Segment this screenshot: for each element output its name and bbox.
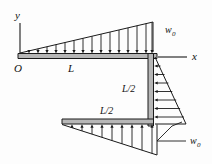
figure-canvas: y x <box>0 0 212 164</box>
span-top-label: L <box>67 62 74 74</box>
side-load-hypotenuse <box>155 57 186 124</box>
segment-lower-label: L/2 <box>99 105 113 116</box>
x-axis-label: x <box>191 50 197 62</box>
top-load-arrows <box>27 22 153 53</box>
bottom-load-hypotenuse <box>62 125 157 156</box>
leader-branch-upper <box>157 126 172 141</box>
side-triangular-load <box>154 57 186 124</box>
segment-upper-label: L/2 <box>121 83 135 94</box>
engineering-diagram: y x <box>0 0 212 164</box>
vertical-column <box>148 54 154 127</box>
y-axis-label: y <box>14 9 20 21</box>
load-top-label: w <box>165 24 172 35</box>
origin-label: O <box>14 62 22 74</box>
bottom-beam-body <box>62 119 154 124</box>
top-load-value-label: w 0 <box>165 24 176 38</box>
load-bottom-subscript: 0 <box>197 141 201 149</box>
bottom-load-value-leader: w 0 <box>157 122 201 149</box>
vertical-column-body <box>148 54 154 127</box>
load-bottom-label: w <box>190 135 197 146</box>
y-axis-group: y <box>14 9 20 54</box>
bottom-triangular-load <box>62 124 157 155</box>
bottom-horizontal-beam <box>62 119 154 124</box>
bottom-load-arrows <box>70 124 153 153</box>
load-top-subscript: 0 <box>172 30 176 38</box>
top-horizontal-beam <box>18 54 157 59</box>
top-triangular-load: w 0 <box>20 22 176 53</box>
top-load-hypotenuse <box>20 22 153 53</box>
top-beam-body <box>18 54 157 59</box>
x-axis-group: x <box>158 50 197 62</box>
